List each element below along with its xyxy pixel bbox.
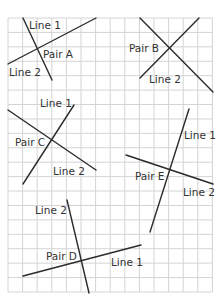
pair-b: Line 2Pair B [129,18,213,92]
pair-a-line-1-label: Line 1 [29,19,61,31]
pair-c-line-1-label: Line 1 [40,97,72,109]
pair-b-line-2-label: Line 2 [149,73,181,85]
pair-e-label: Pair E [135,170,165,182]
pair-e-line-1-label: Line 1 [184,129,216,141]
pair-b-label: Pair B [129,42,159,54]
pair-c-label: Pair C [15,136,45,148]
line-pairs-diagram: Line 1Line 2Pair ALine 2Pair BLine 1Line… [0,0,224,306]
pair-d-line-2 [67,200,89,293]
pair-d-line-1-label: Line 1 [111,256,143,268]
pair-d-line-2-label: Line 2 [35,204,67,216]
line-pairs: Line 1Line 2Pair ALine 2Pair BLine 1Line… [8,18,216,293]
pair-c-line-2-label: Line 2 [53,165,85,177]
pair-d-label: Pair D [46,250,77,262]
pair-a-line-2-label: Line 2 [9,66,41,78]
pair-e-line-2-label: Line 2 [183,186,215,198]
pair-a-label: Pair A [43,48,74,60]
grid [8,18,212,292]
diagram-stage: Line 1Line 2Pair ALine 2Pair BLine 1Line… [0,0,224,306]
